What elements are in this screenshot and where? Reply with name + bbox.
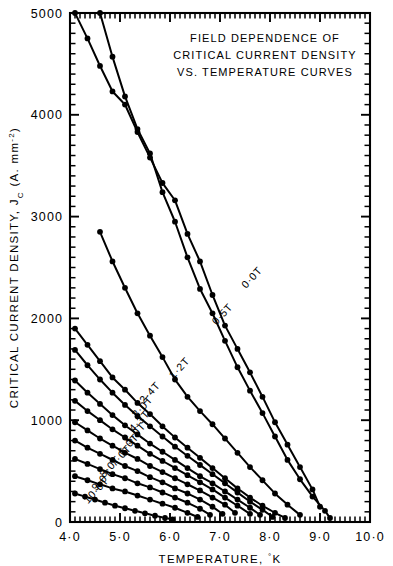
series-segment	[189, 260, 199, 286]
series-segment	[90, 432, 97, 437]
data-point	[257, 512, 263, 518]
data-point	[147, 155, 153, 161]
data-point	[160, 479, 166, 485]
data-point	[110, 443, 116, 449]
series-segment	[178, 490, 185, 493]
x-tick-label: 7·0	[209, 530, 230, 544]
series-segment	[227, 441, 235, 450]
data-point	[210, 480, 216, 486]
series-segment	[153, 455, 160, 459]
data-point	[272, 434, 278, 440]
x-tick-label: 6·0	[159, 530, 180, 544]
data-point	[160, 354, 166, 360]
data-point	[160, 490, 166, 496]
data-point	[147, 484, 153, 490]
y-tick-label: 4000	[31, 108, 63, 122]
series-segment	[164, 186, 173, 198]
x-tick-label: 8·0	[259, 530, 280, 544]
series-segment	[166, 505, 172, 507]
data-point	[135, 456, 141, 462]
series-segment	[128, 509, 132, 510]
data-point	[235, 364, 241, 370]
data-point	[247, 369, 253, 375]
data-point	[85, 36, 91, 42]
data-point	[102, 500, 108, 506]
data-point	[97, 377, 103, 383]
data-point	[197, 462, 203, 468]
series-0-5T: 0·5T	[72, 10, 323, 510]
series-segment	[115, 94, 123, 103]
data-point	[172, 486, 178, 492]
data-point	[122, 505, 128, 511]
series-segment	[128, 492, 134, 494]
series-segment	[153, 467, 160, 470]
series-segment	[251, 375, 261, 394]
series-segment	[277, 496, 285, 503]
x-axis-label: TEMPERATURE, °K	[159, 552, 282, 566]
series-segment	[165, 474, 172, 477]
series-segment	[102, 406, 110, 413]
series-segment	[152, 338, 161, 354]
data-point	[210, 495, 216, 501]
data-point	[135, 468, 141, 474]
series-segment	[90, 368, 98, 377]
data-point	[110, 258, 116, 264]
series-segment	[114, 264, 124, 285]
data-point	[272, 419, 278, 425]
data-point	[85, 461, 91, 467]
data-point	[122, 463, 128, 469]
series-segment	[126, 291, 136, 311]
data-point	[97, 10, 103, 16]
data-point	[72, 378, 78, 384]
data-point	[197, 258, 203, 264]
series-segment	[265, 483, 273, 492]
series-segment	[115, 380, 123, 388]
series-segment	[76, 16, 86, 36]
series-segment	[277, 425, 286, 442]
series-segment	[140, 447, 147, 452]
series-segment	[102, 364, 111, 375]
series-segment	[165, 484, 172, 487]
series-segment	[153, 478, 160, 481]
data-point	[207, 512, 213, 518]
series-segment	[113, 60, 124, 94]
series-segment	[215, 476, 222, 481]
data-point	[210, 292, 216, 298]
data-point	[85, 445, 91, 451]
data-point	[72, 473, 78, 479]
data-point	[147, 333, 153, 339]
y-tick-label: 0	[55, 516, 63, 530]
series-segment	[153, 489, 160, 492]
data-point	[185, 231, 191, 237]
y-tick-label: 1000	[31, 414, 63, 428]
series-segment	[78, 424, 85, 429]
data-point	[112, 503, 118, 509]
x-tick-label: 10·0	[355, 530, 384, 544]
x-tick-label: 4·0	[59, 530, 80, 544]
y-tick-label: 2000	[31, 312, 63, 326]
data-point	[110, 54, 116, 60]
series-segment	[78, 442, 85, 446]
series-segment	[190, 486, 197, 489]
data-point	[285, 502, 291, 508]
series-segment	[190, 514, 194, 516]
data-point	[235, 346, 241, 352]
series-segment	[278, 514, 282, 516]
data-point	[222, 495, 228, 501]
data-point	[327, 515, 333, 521]
data-point	[72, 398, 78, 404]
data-point	[72, 438, 78, 444]
data-point	[147, 497, 153, 503]
critical-current-density-chart: 4·05·06·07·08·09·010·0010002000300040005…	[0, 0, 393, 566]
data-point	[122, 475, 128, 481]
series-segment	[178, 509, 185, 512]
series-segment	[141, 484, 147, 486]
series-segment	[202, 460, 210, 466]
data-point	[185, 510, 191, 516]
series-segment	[203, 467, 210, 472]
series-segment	[203, 501, 210, 505]
series-segment	[164, 195, 174, 219]
data-point	[172, 505, 178, 511]
data-point	[172, 465, 178, 471]
series-segment	[102, 382, 110, 391]
